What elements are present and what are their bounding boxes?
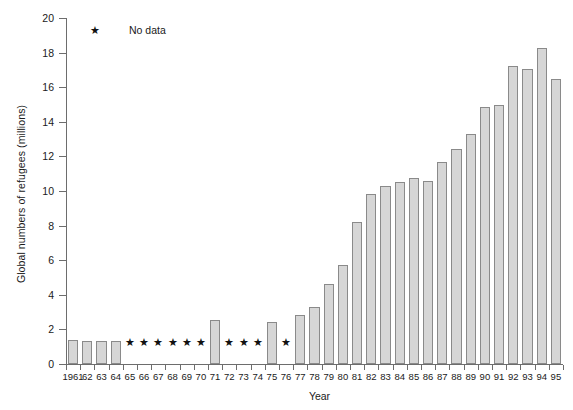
x-tick — [407, 365, 408, 370]
x-tick-label: 67 — [151, 372, 165, 382]
no-data-star-icon: ★ — [195, 337, 207, 348]
x-tick-label: 77 — [293, 372, 307, 382]
y-tick-label: 2 — [14, 324, 54, 335]
y-tick — [59, 295, 66, 296]
x-tick — [66, 365, 67, 370]
x-tick-label: 81 — [350, 372, 364, 382]
y-tick-label: 10 — [14, 186, 54, 197]
x-tick — [94, 365, 95, 370]
x-tick-label: 94 — [535, 372, 549, 382]
bar — [551, 79, 561, 364]
x-tick-label: 68 — [165, 372, 179, 382]
bar — [423, 181, 433, 364]
no-data-star-icon: ★ — [223, 337, 235, 348]
y-tick-label: 6 — [14, 255, 54, 266]
x-tick-label: 75 — [265, 372, 279, 382]
x-tick — [109, 365, 110, 370]
y-tick — [59, 87, 66, 88]
x-tick-label: 71 — [208, 372, 222, 382]
bar — [352, 222, 362, 364]
x-axis-title: Year — [0, 390, 573, 402]
x-tick — [322, 365, 323, 370]
x-tick — [563, 365, 564, 370]
y-tick — [59, 260, 66, 261]
y-tick — [59, 122, 66, 123]
bar — [96, 341, 106, 364]
y-tick-label: 8 — [14, 221, 54, 232]
bar — [494, 105, 504, 364]
y-tick — [59, 226, 66, 227]
x-tick-label: 88 — [449, 372, 463, 382]
bar — [380, 186, 390, 364]
x-tick-label: 66 — [137, 372, 151, 382]
bar — [111, 341, 121, 364]
bar — [210, 320, 220, 364]
y-tick — [59, 18, 66, 19]
x-tick — [251, 365, 252, 370]
x-tick-label: 82 — [364, 372, 378, 382]
bar — [480, 107, 490, 364]
x-tick-label: 63 — [94, 372, 108, 382]
x-tick — [307, 365, 308, 370]
x-tick — [293, 365, 294, 370]
chart-legend: ★ No data — [88, 24, 166, 36]
no-data-star-icon: ★ — [124, 337, 136, 348]
x-tick-label: 73 — [236, 372, 250, 382]
no-data-star-icon: ★ — [252, 337, 264, 348]
x-tick — [279, 365, 280, 370]
x-tick-label: 64 — [109, 372, 123, 382]
x-tick-label: 92 — [506, 372, 520, 382]
star-marker-icon: ★ — [88, 25, 102, 36]
x-tick-label: 74 — [251, 372, 265, 382]
x-tick-label: 93 — [520, 372, 534, 382]
bar — [508, 66, 518, 364]
x-tick-label: 86 — [421, 372, 435, 382]
bar — [466, 134, 476, 364]
x-tick-label: 78 — [307, 372, 321, 382]
x-tick — [435, 365, 436, 370]
x-tick — [123, 365, 124, 370]
x-tick-label: 87 — [435, 372, 449, 382]
y-tick — [59, 53, 66, 54]
x-tick — [378, 365, 379, 370]
bar — [338, 265, 348, 364]
x-tick-label: 83 — [378, 372, 392, 382]
y-tick-label: 12 — [14, 151, 54, 162]
no-data-star-icon: ★ — [181, 337, 193, 348]
x-tick-label: 91 — [492, 372, 506, 382]
bar — [437, 162, 447, 364]
x-tick — [194, 365, 195, 370]
y-tick-label: 14 — [14, 117, 54, 128]
x-tick-label: 62 — [80, 372, 94, 382]
bar — [451, 149, 461, 364]
bar — [522, 69, 532, 364]
x-tick — [222, 365, 223, 370]
y-tick — [59, 329, 66, 330]
x-tick — [364, 365, 365, 370]
no-data-star-icon: ★ — [152, 337, 164, 348]
no-data-star-icon: ★ — [238, 337, 250, 348]
bar — [267, 322, 277, 364]
x-tick-label: 84 — [393, 372, 407, 382]
x-tick — [478, 365, 479, 370]
y-tick — [59, 156, 66, 157]
bar — [309, 307, 319, 364]
x-tick — [137, 365, 138, 370]
x-tick — [449, 365, 450, 370]
no-data-star-icon: ★ — [138, 337, 150, 348]
bar — [366, 194, 376, 364]
x-tick — [80, 365, 81, 370]
x-tick — [506, 365, 507, 370]
x-tick-label: 85 — [407, 372, 421, 382]
legend-label-no-data: No data — [129, 24, 166, 36]
x-tick — [350, 365, 351, 370]
x-tick — [393, 365, 394, 370]
x-tick-label: 90 — [478, 372, 492, 382]
y-tick — [59, 191, 66, 192]
y-tick-label: 16 — [14, 82, 54, 93]
x-tick-label: 76 — [279, 372, 293, 382]
x-tick-label: 69 — [180, 372, 194, 382]
no-data-star-icon: ★ — [167, 337, 179, 348]
x-axis-line — [66, 364, 563, 365]
x-tick — [151, 365, 152, 370]
